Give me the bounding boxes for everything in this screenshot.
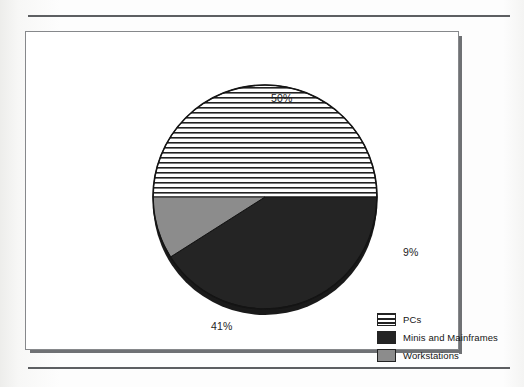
legend-label-pcs: PCs <box>403 314 421 325</box>
data-label-workstations: 9% <box>403 246 419 258</box>
document-page: 50% 9% 41% PCs Minis and Mainframes Work… <box>0 0 524 387</box>
chart-figure-frame: 50% 9% 41% PCs Minis and Mainframes Work… <box>25 31 459 350</box>
chart-legend: PCs Minis and Mainframes Workstations <box>377 313 498 362</box>
striped-swatch-icon <box>377 313 396 326</box>
data-label-pcs: 50% <box>271 92 293 104</box>
legend-label-workstations: Workstations <box>403 350 459 361</box>
legend-label-minis-and-mainframes: Minis and Mainframes <box>403 332 498 343</box>
pie-slice-pcs[interactable] <box>153 85 377 197</box>
gray-swatch-icon <box>377 349 396 362</box>
legend-item-pcs[interactable]: PCs <box>377 313 498 326</box>
horizontal-rule-bottom <box>28 367 510 369</box>
data-label-minis-and-mainframes: 41% <box>211 320 233 332</box>
legend-item-minis-and-mainframes[interactable]: Minis and Mainframes <box>377 331 498 344</box>
dark-swatch-icon <box>377 331 396 344</box>
pie-chart-svg <box>26 32 460 351</box>
pie-chart <box>26 32 460 351</box>
legend-item-workstations[interactable]: Workstations <box>377 349 498 362</box>
horizontal-rule-top <box>28 15 510 17</box>
